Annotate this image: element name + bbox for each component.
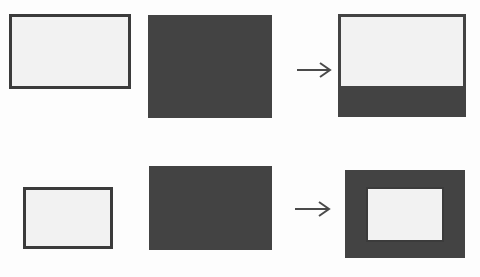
row1-arrow-right-icon — [296, 58, 336, 82]
row2-source-light-rectangle — [23, 187, 113, 249]
row1-source-dark-rectangle — [148, 15, 272, 118]
row2-source-dark-rectangle — [149, 166, 272, 250]
row2-arrow-right-icon — [294, 197, 334, 221]
diagram-canvas — [0, 0, 480, 277]
row1-source-light-rectangle — [9, 14, 131, 89]
row2-result-composite-frame — [345, 170, 465, 258]
row1-result-inner-light-area — [341, 17, 463, 86]
row1-result-composite — [338, 14, 466, 117]
row2-result-inner-light-area — [366, 187, 444, 242]
